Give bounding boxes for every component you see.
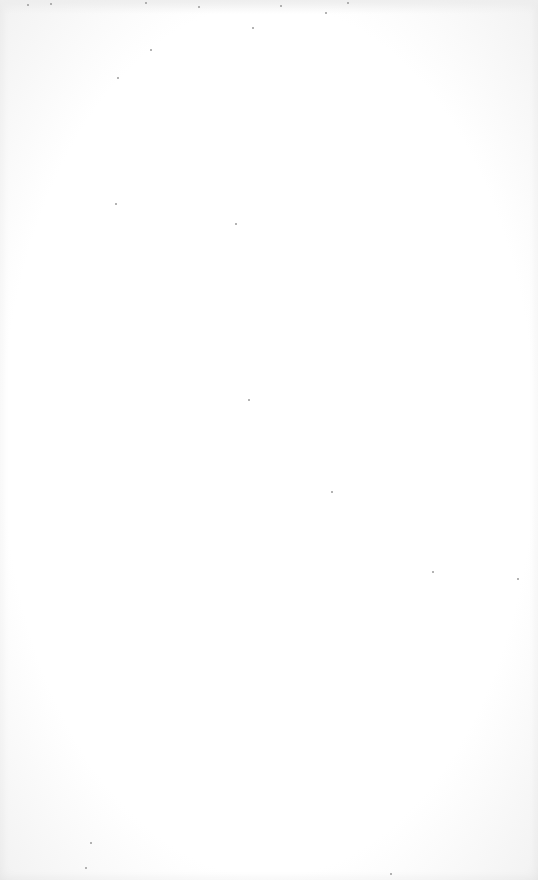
dust-speck [198,6,200,8]
dust-speck [85,867,87,869]
dust-speck [432,571,434,573]
dust-speck [117,77,119,79]
dust-speck [235,223,237,225]
dust-speck [150,49,152,51]
blank-page [0,0,538,880]
page-top-edge [0,0,538,14]
dust-speck [331,491,333,493]
dust-speck [145,2,147,4]
dust-speck [347,2,349,4]
dust-speck [517,578,519,580]
dust-speck [27,4,29,6]
dust-speck [50,3,52,5]
dust-speck [248,399,250,401]
dust-speck [115,203,117,205]
dust-speck [280,5,282,7]
dust-speck [252,27,254,29]
dust-speck [390,873,392,875]
dust-speck [90,842,92,844]
dust-speck [325,12,327,14]
